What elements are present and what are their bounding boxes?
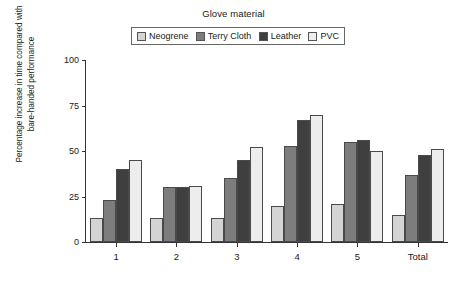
bar-terry-cloth[interactable]	[405, 175, 418, 242]
bar-leather[interactable]	[418, 155, 431, 242]
bar-group: 1	[86, 60, 146, 242]
plot-area: 0255075100 12345Total	[85, 60, 448, 243]
x-tick-mark	[176, 242, 177, 247]
x-tick-mark	[357, 242, 358, 247]
bar-group: 2	[146, 60, 206, 242]
legend-swatch-pvc	[308, 32, 317, 41]
legend-item-neogrene: Neogrene	[137, 31, 189, 41]
bar-terry-cloth[interactable]	[103, 200, 116, 242]
y-tick-label: 50	[45, 146, 86, 156]
bar-pvc[interactable]	[431, 149, 444, 242]
x-tick-mark	[418, 242, 419, 247]
bar-terry-cloth[interactable]	[284, 146, 297, 242]
bar-neogrene[interactable]	[331, 204, 344, 242]
legend-swatch-leather	[259, 32, 268, 41]
bar-chart-figure: Glove material Neogrene Terry Cloth Leat…	[0, 0, 467, 287]
legend-label-leather: Leather	[271, 31, 302, 41]
legend-label-pvc: PVC	[320, 31, 339, 41]
x-tick-label: 4	[267, 251, 327, 262]
bar-terry-cloth[interactable]	[224, 178, 237, 242]
bar-pvc[interactable]	[370, 151, 383, 242]
y-tick-mark	[82, 242, 86, 243]
y-tick-label: 75	[45, 101, 86, 111]
bar-terry-cloth[interactable]	[344, 142, 357, 242]
legend-swatch-terry-cloth	[196, 32, 205, 41]
legend-title: Glove material	[0, 8, 467, 19]
legend-item-leather: Leather	[259, 31, 302, 41]
bar-groups: 12345Total	[86, 60, 448, 242]
bar-neogrene[interactable]	[211, 218, 224, 242]
bar-group: 3	[207, 60, 267, 242]
bar-pvc[interactable]	[129, 160, 142, 242]
bar-leather[interactable]	[357, 140, 370, 242]
bar-neogrene[interactable]	[392, 215, 405, 242]
bar-leather[interactable]	[176, 187, 189, 242]
y-axis-label-line-1: Percentage increase in time compared wit…	[14, 0, 26, 184]
x-tick-label: 5	[327, 251, 387, 262]
x-tick-label: 3	[207, 251, 267, 262]
legend-item-terry-cloth: Terry Cloth	[196, 31, 252, 41]
x-tick-label: 2	[146, 251, 206, 262]
legend-label-terry-cloth: Terry Cloth	[208, 31, 252, 41]
x-tick-mark	[116, 242, 117, 247]
y-tick-label: 0	[45, 237, 86, 247]
legend-item-pvc: PVC	[308, 31, 339, 41]
y-axis-label-line-2: bare-handed performance	[26, 0, 38, 184]
bar-group: 4	[267, 60, 327, 242]
bar-group: 5	[327, 60, 387, 242]
bar-pvc[interactable]	[310, 115, 323, 242]
bar-leather[interactable]	[237, 160, 250, 242]
legend-label-neogrene: Neogrene	[149, 31, 189, 41]
bar-pvc[interactable]	[250, 147, 263, 242]
bar-neogrene[interactable]	[271, 206, 284, 242]
y-tick-label: 100	[45, 55, 86, 65]
y-tick-label: 25	[45, 192, 86, 202]
x-tick-mark	[297, 242, 298, 247]
bar-leather[interactable]	[116, 169, 129, 242]
x-tick-label: Total	[388, 251, 448, 262]
y-axis-label: Percentage increase in time compared wit…	[14, 0, 42, 184]
legend-swatch-neogrene	[137, 32, 146, 41]
bar-leather[interactable]	[297, 120, 310, 242]
bar-neogrene[interactable]	[150, 218, 163, 242]
legend: Neogrene Terry Cloth Leather PVC	[131, 27, 345, 45]
bar-pvc[interactable]	[189, 186, 202, 242]
x-tick-label: 1	[86, 251, 146, 262]
x-tick-mark	[237, 242, 238, 247]
bar-neogrene[interactable]	[90, 218, 103, 242]
bar-group: Total	[388, 60, 448, 242]
bar-terry-cloth[interactable]	[163, 187, 176, 242]
